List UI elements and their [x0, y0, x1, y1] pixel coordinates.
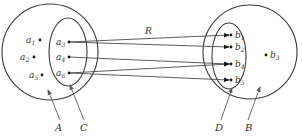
point-b5 — [230, 79, 233, 82]
edge-a4-b4 — [69, 57, 229, 64]
relation-diagram: R a1 a2 a5 a3 a4 a6 b1 b2 b4 b5 b3 A — [0, 0, 302, 139]
pointer-c — [70, 85, 84, 120]
label-a5: a5 — [29, 70, 38, 81]
edge-a6-b4 — [69, 64, 229, 73]
point-b4 — [230, 63, 233, 66]
label-b2: b2 — [235, 42, 245, 53]
label-a6: a6 — [56, 68, 65, 79]
label-b3: b3 — [270, 50, 280, 61]
point-a5 — [41, 74, 44, 77]
relation-label: R — [144, 26, 152, 36]
set-label-d: D — [214, 122, 223, 133]
elements-b: b1 b2 b4 b5 b3 — [230, 30, 280, 86]
set-label-c: C — [80, 122, 88, 133]
point-b1 — [230, 34, 233, 37]
set-label-a: A — [54, 122, 62, 133]
point-a1 — [39, 39, 42, 42]
pointer-b — [248, 87, 260, 120]
set-c-ellipse — [49, 18, 87, 86]
label-b4: b4 — [235, 59, 245, 70]
label-a3: a3 — [56, 37, 65, 48]
point-a4 — [68, 56, 71, 59]
set-b-circle — [203, 5, 297, 99]
point-a6 — [68, 72, 71, 75]
point-a3 — [68, 41, 71, 44]
set-a-circle — [2, 4, 98, 100]
point-b3 — [265, 54, 268, 57]
pointer-a — [48, 90, 60, 120]
edge-a6-b5 — [69, 73, 229, 80]
set-label-b: B — [244, 122, 252, 133]
label-b5: b5 — [235, 75, 245, 86]
label-a2: a2 — [20, 52, 29, 63]
point-b2 — [230, 46, 233, 49]
label-b1: b1 — [235, 30, 245, 41]
label-a4: a4 — [56, 52, 65, 63]
edge-a3-b2 — [69, 42, 229, 47]
elements-a: a1 a2 a5 a3 a4 a6 — [20, 35, 70, 81]
label-a1: a1 — [26, 35, 35, 46]
point-a2 — [33, 56, 36, 59]
